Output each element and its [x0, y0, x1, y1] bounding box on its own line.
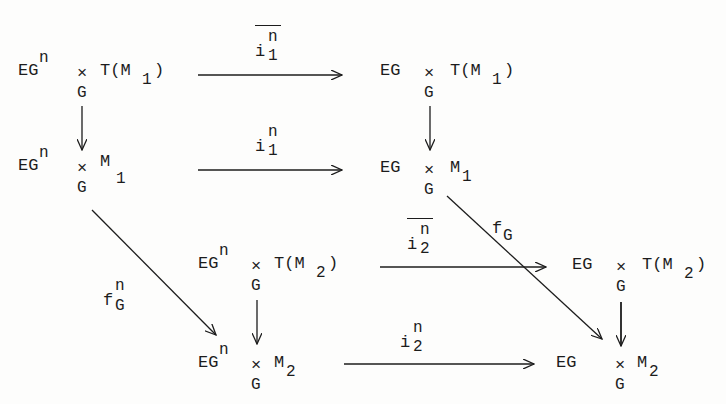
node-d-times-sub: G [424, 182, 434, 198]
node-a-base: EG [18, 62, 38, 79]
label-i2-bar-sup: n [420, 222, 430, 238]
node-c-times-sub: G [77, 180, 87, 196]
label-i2-sup: n [413, 320, 423, 336]
node-e-rest-sub: 2 [316, 265, 326, 281]
node-g-sup: n [219, 342, 229, 358]
node-f-base: EG [572, 256, 592, 273]
label-i1-bar-sup: n [268, 29, 278, 45]
node-b-base: EG [380, 62, 400, 79]
label-i2: i n 2 [400, 324, 440, 360]
node-e-times: × [251, 258, 261, 275]
node-d-times: × [424, 162, 434, 179]
label-i1-bar-sub: 1 [268, 48, 278, 64]
overline-mark [407, 218, 433, 219]
node-b-rest: T(M [450, 62, 481, 79]
label-i1-bar-base: i [255, 43, 265, 60]
label-fGn-sup: n [115, 278, 125, 294]
node-c-base: EG [18, 157, 38, 174]
node-a-times-sub: G [77, 85, 87, 101]
node-h-times-sub: G [615, 377, 625, 393]
node-e-sup: n [219, 243, 229, 259]
label-i2-base: i [400, 334, 410, 351]
label-fGn-sub: G [115, 298, 125, 314]
label-fG-sub: G [503, 228, 513, 244]
node-h-rest: M [637, 354, 647, 371]
node-h-rest-sub: 2 [649, 364, 659, 380]
overline-mark [255, 25, 281, 26]
node-a-sup: n [39, 50, 49, 66]
label-i1-sup: n [268, 124, 278, 140]
node-c-sup: n [39, 145, 49, 161]
node-a-rest-sub: 1 [142, 72, 152, 88]
node-h-base: EG [556, 354, 576, 371]
node-e-base: EG [198, 255, 218, 272]
label-fG-base: f [492, 220, 502, 237]
label-i2-bar: i n 2 [407, 226, 447, 262]
node-e-rest: T(M [274, 255, 305, 272]
label-fGn: f n G [103, 288, 143, 324]
label-fGn-base: f [103, 292, 113, 309]
node-g-rest: M [274, 354, 284, 371]
label-i1-base: i [255, 138, 265, 155]
label-i1-sub: 1 [268, 143, 278, 159]
label-i2-bar-sub: 2 [420, 241, 430, 257]
node-b-times: × [424, 65, 434, 82]
label-i1-bar: i n 1 [255, 33, 295, 69]
label-i2-bar-base: i [407, 236, 417, 253]
node-d-rest: M [450, 159, 460, 176]
node-f-rest-sub: 2 [684, 266, 694, 282]
node-a-rest: T(M [100, 62, 131, 79]
node-f-rest: T(M [642, 256, 673, 273]
node-a-close: ) [154, 62, 164, 79]
node-b-close: ) [504, 62, 514, 79]
label-i2-sub: 2 [413, 339, 423, 355]
node-d-rest-sub: 1 [462, 169, 472, 185]
node-g-times-sub: G [251, 377, 261, 393]
node-h-times: × [615, 357, 625, 374]
node-f-times-sub: G [616, 279, 626, 295]
node-e-close: ) [328, 255, 338, 272]
node-g-base: EG [198, 354, 218, 371]
node-g-rest-sub: 2 [286, 364, 296, 380]
label-fG: f G [492, 220, 528, 250]
node-c-times: × [77, 160, 87, 177]
node-f-close: ) [696, 256, 706, 273]
node-g-times: × [251, 357, 261, 374]
node-a-times: × [77, 65, 87, 82]
node-b-times-sub: G [424, 85, 434, 101]
node-b-rest-sub: 1 [492, 72, 502, 88]
label-i1: i n 1 [255, 128, 295, 164]
node-c-rest: M [100, 153, 110, 170]
node-f-times: × [616, 259, 626, 276]
node-d-base: EG [380, 159, 400, 176]
node-c-rest-sub: 1 [116, 171, 126, 187]
node-e-times-sub: G [251, 278, 261, 294]
commutative-diagram: EG n × G T(M 1 ) EG × G T(M 1 ) EG n × G… [0, 0, 726, 404]
